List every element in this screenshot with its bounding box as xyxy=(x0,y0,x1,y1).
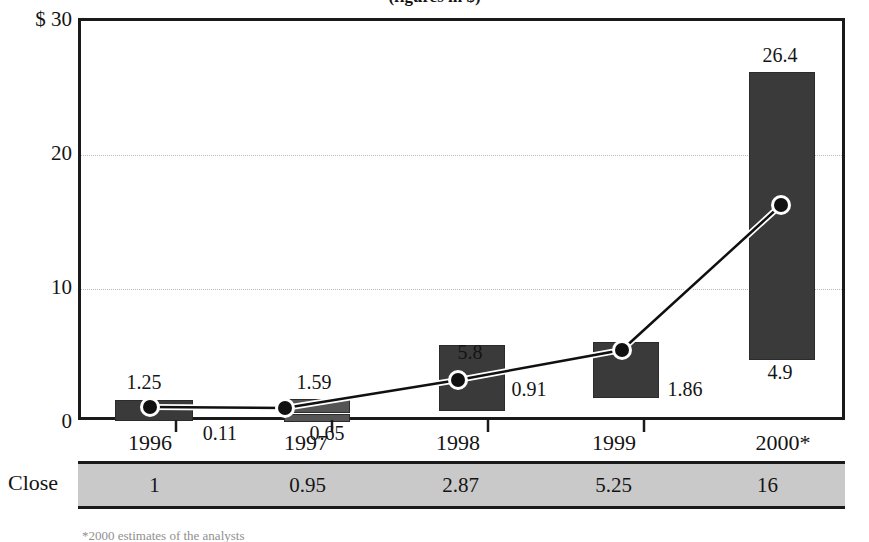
y-tick-label-30: $ 30 xyxy=(0,7,72,32)
footnote-strip: *2000 estimates of the analysts xyxy=(0,528,869,542)
gridline-20 xyxy=(81,155,842,156)
high-low-bar-2000 xyxy=(749,72,815,360)
x-axis-label-1998: 1998 xyxy=(408,430,508,456)
close-value-1996: 1 xyxy=(78,464,231,506)
low-label-1998: 0.91 xyxy=(498,378,560,401)
y-tick-label-0: 0 xyxy=(0,409,72,434)
close-value-1997: 0.95 xyxy=(231,464,384,506)
high-label-2000: 26.4 xyxy=(738,44,822,67)
y-tick-label-10: 10 xyxy=(0,275,72,300)
close-value-1999: 5.25 xyxy=(537,464,690,506)
high-low-bar-1997 xyxy=(284,399,350,413)
low-label-2000: 4.9 xyxy=(738,361,822,384)
high-label-1999: 6 xyxy=(582,339,666,362)
footnote: *2000 estimates of the analysts xyxy=(82,528,244,542)
high-low-bar-1997-lower xyxy=(284,414,350,422)
gridline-10 xyxy=(81,289,842,290)
x-axis-label-1999: 1999 xyxy=(564,430,664,456)
high-label-1996: 1.25 xyxy=(102,371,186,394)
y-axis: $ 30 20 10 0 xyxy=(0,0,72,440)
x-axis-label-1996: 1996 xyxy=(100,430,200,456)
y-tick-label-20: 20 xyxy=(0,141,72,166)
close-data-table: 1 0.95 2.87 5.25 16 xyxy=(78,461,845,509)
chart-title-strip: (figures in $) xyxy=(0,0,869,12)
x-axis-label-1997: 1997 xyxy=(256,430,356,456)
high-label-1998: 5.8 xyxy=(428,341,512,364)
high-low-bar-1996 xyxy=(115,400,193,421)
high-label-1997: 1.59 xyxy=(272,371,356,394)
chart-title: (figures in $) xyxy=(0,0,869,7)
close-value-2000: 16 xyxy=(690,464,845,506)
low-label-1999: 1.86 xyxy=(654,378,716,401)
x-axis-label-2000: 2000* xyxy=(728,430,838,456)
close-value-1998: 2.87 xyxy=(384,464,537,506)
